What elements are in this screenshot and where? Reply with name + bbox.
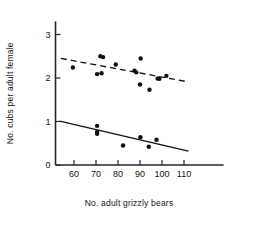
y-tick-label: 2 — [45, 73, 50, 83]
x-tick-label: 110 — [177, 169, 191, 179]
data-point — [95, 72, 99, 76]
data-point — [138, 82, 142, 86]
data-point — [71, 65, 75, 69]
y-axis-title: No. cubs per adult female — [5, 42, 15, 144]
regression-line-upper-group — [61, 58, 189, 81]
x-axis-title: No. adult grizzly bears — [85, 198, 174, 208]
x-tick-label: 80 — [113, 169, 123, 179]
data-point — [154, 138, 158, 142]
data-point — [134, 70, 138, 74]
data-point — [99, 71, 103, 75]
data-point — [147, 88, 151, 92]
data-point — [121, 143, 125, 147]
scatter-plot-figure: 012360708090100110No. adult grizzly bear… — [0, 0, 268, 228]
data-point — [114, 62, 118, 66]
x-tick-label: 90 — [135, 169, 145, 179]
x-tick-label: 70 — [91, 169, 101, 179]
data-point — [95, 131, 99, 135]
data-point — [157, 77, 161, 81]
plot-canvas: 012360708090100110No. adult grizzly bear… — [0, 0, 268, 228]
data-point — [138, 56, 142, 60]
x-tick-label: 60 — [69, 169, 79, 179]
y-tick-label: 0 — [45, 160, 50, 170]
data-point — [95, 124, 99, 128]
y-tick-label: 1 — [45, 117, 50, 127]
data-point — [138, 135, 142, 139]
data-point — [101, 55, 105, 59]
y-tick-label: 3 — [45, 30, 50, 40]
data-point — [147, 145, 151, 149]
x-tick-label: 100 — [154, 169, 169, 179]
data-point — [164, 74, 168, 78]
